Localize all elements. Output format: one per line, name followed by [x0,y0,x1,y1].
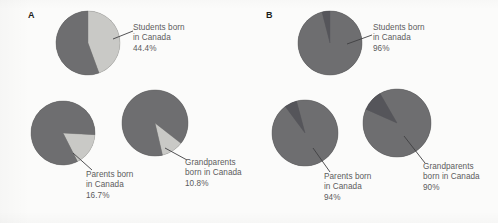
callout-b-parents-value: 94% [324,193,371,203]
pie-B-parents [272,100,338,166]
callout-a-grandparents: Grandparents born in Canada 10.8% [185,158,242,189]
a-grandparents-leader [165,148,187,160]
callout-a-students-line1: Students born [133,23,185,33]
callout-b-parents: Parents born in Canada 94% [324,172,371,203]
callout-a-parents-line1: Parents born [86,170,133,180]
callout-b-students-line2: in Canada [373,33,425,43]
callout-b-grandparents-line2: born in Canada [423,172,480,182]
callout-b-parents-line2: in Canada [324,182,371,192]
pie-B-students [298,11,362,75]
pie-B-grandparents [363,89,431,157]
callout-b-students-line1: Students born [373,23,425,33]
callout-a-students: Students born in Canada 44.4% [133,23,185,54]
callout-b-grandparents-line1: Grandparents [423,162,480,172]
callout-a-grandparents-value: 10.8% [185,179,242,189]
pie-A-students [56,11,120,75]
callout-a-students-line2: in Canada [133,33,185,43]
panel-label-b: B [266,10,273,20]
callout-a-grandparents-line2: born in Canada [185,168,242,178]
pie-A-parents [31,101,95,165]
callout-b-grandparents: Grandparents born in Canada 90% [423,162,480,193]
callout-a-parents-line2: in Canada [86,180,133,190]
pies-group [31,11,431,166]
callout-a-students-value: 44.4% [133,44,185,54]
panel-label-a: A [28,10,35,20]
callout-a-parents-value: 16.7% [86,191,133,201]
callout-b-parents-line1: Parents born [324,172,371,182]
callout-a-grandparents-line1: Grandparents [185,158,242,168]
callout-b-students-value: 96% [373,44,425,54]
pie-A-grandparents [122,90,188,156]
callout-b-grandparents-value: 90% [423,183,480,193]
figure-pie-chart-panels: A B Students born in Canada 44.4% Parent… [0,0,498,223]
callout-a-parents: Parents born in Canada 16.7% [86,170,133,201]
callout-b-students: Students born in Canada 96% [373,23,425,54]
